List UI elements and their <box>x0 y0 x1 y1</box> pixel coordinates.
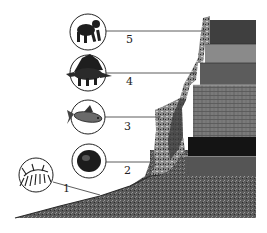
label-4: 4 <box>126 76 133 87</box>
shell-icon <box>77 150 101 172</box>
label-2: 2 <box>124 165 131 176</box>
layer-top <box>205 20 256 44</box>
layer-lower <box>185 156 256 176</box>
organism-4 <box>66 54 112 91</box>
label-1: 1 <box>63 183 70 194</box>
layer-upper-3 <box>200 63 256 85</box>
label-5: 5 <box>126 34 133 45</box>
layer-coal-band <box>188 137 256 156</box>
organism-5 <box>70 14 106 50</box>
fossil-strata-diagram <box>0 0 267 233</box>
leader-line-1 <box>53 182 100 195</box>
label-3: 3 <box>124 121 131 132</box>
organism-2 <box>72 144 106 178</box>
layer-limestone <box>193 85 256 137</box>
organism-3 <box>67 100 105 134</box>
organism-1 <box>19 158 53 192</box>
layer-upper-2 <box>205 44 256 63</box>
